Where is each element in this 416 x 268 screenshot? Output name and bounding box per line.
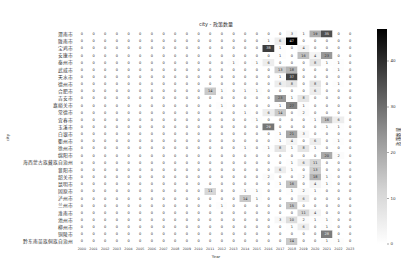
heatmap-cell: 0	[204, 95, 216, 102]
heatmap-cell: 0	[181, 216, 193, 223]
x-tick-label: 2007	[158, 247, 170, 251]
heatmap-cell: 0	[309, 238, 321, 245]
x-tick-label: 2012	[216, 247, 228, 251]
heatmap-cell: 0	[309, 231, 321, 238]
heatmap-cell: 0	[239, 66, 251, 73]
heatmap-cell: 1	[286, 145, 298, 152]
heatmap-cell: 0	[88, 209, 100, 216]
heatmap-cell: 1	[298, 31, 310, 38]
heatmap-cell: 0	[251, 159, 263, 166]
heatmap-cell: 15	[286, 202, 298, 209]
heatmap-cell: 3	[286, 31, 298, 38]
heatmap-cell: 0	[228, 102, 240, 109]
heatmap-cell: 0	[134, 38, 146, 45]
heatmap-cell: 0	[216, 174, 228, 181]
heatmap-cell: 0	[134, 31, 146, 38]
heatmap-cell: 6	[274, 166, 286, 173]
heatmap-cell: 0	[169, 209, 181, 216]
heatmap-cell: 0	[181, 188, 193, 195]
heatmap-cell: 0	[274, 238, 286, 245]
heatmap-cell: 0	[99, 109, 111, 116]
heatmap-cell: 0	[111, 138, 123, 145]
colorbar-label: 政策数量	[395, 117, 401, 157]
heatmap-cell: 0	[123, 31, 135, 38]
heatmap-cell: 0	[99, 216, 111, 223]
heatmap-cell: 0	[123, 81, 135, 88]
heatmap-cell: 0	[158, 216, 170, 223]
heatmap-cell: 0	[216, 216, 228, 223]
heatmap-cell: 0	[99, 152, 111, 159]
heatmap-cell: 1	[321, 123, 333, 130]
heatmap-cell: 0	[181, 109, 193, 116]
heatmap-cell: 0	[216, 138, 228, 145]
heatmap-cell: 16	[286, 181, 298, 188]
heatmap-cell: 0	[169, 66, 181, 73]
heatmap-cell: 0	[99, 52, 111, 59]
heatmap-cell: 0	[309, 195, 321, 202]
heatmap-cell: 0	[99, 38, 111, 45]
heatmap-cell: 0	[193, 31, 205, 38]
heatmap-cell: 0	[204, 123, 216, 130]
row-label: 徐州市	[0, 145, 73, 152]
heatmap-cell: 0	[134, 66, 146, 73]
heatmap-cell: 0	[344, 138, 356, 145]
heatmap-cell: 0	[344, 202, 356, 209]
x-tick-labels: 2000200120022003200420052006200720082009…	[76, 247, 356, 251]
heatmap-cell: 0	[99, 238, 111, 245]
heatmap-cell: 0	[228, 238, 240, 245]
heatmap-cell: 0	[239, 166, 251, 173]
heatmap-cell: 14	[239, 195, 251, 202]
heatmap-grid: 0000000000000000003119350000000000000000…	[76, 31, 356, 246]
heatmap-cell: 29	[263, 123, 275, 130]
row-label: 宝鸡市	[0, 45, 73, 52]
heatmap-cell: 0	[134, 181, 146, 188]
heatmap-cell: 0	[181, 131, 193, 138]
heatmap-cell: 0	[88, 202, 100, 209]
heatmap-cell: 0	[228, 73, 240, 80]
heatmap-cell: 0	[169, 131, 181, 138]
heatmap-cell: 0	[321, 166, 333, 173]
heatmap-cell: 0	[193, 59, 205, 66]
heatmap-cell: 0	[309, 224, 321, 231]
heatmap-cell: 0	[298, 152, 310, 159]
heatmap-cell: 0	[228, 231, 240, 238]
heatmap-cell: 0	[333, 195, 345, 202]
heatmap-cell: 0	[228, 52, 240, 59]
heatmap-cell: 0	[76, 166, 88, 173]
heatmap-cell: 0	[99, 59, 111, 66]
heatmap-cell: 0	[263, 216, 275, 223]
heatmap-cell: 1	[239, 88, 251, 95]
heatmap-cell: 0	[333, 102, 345, 109]
heatmap-cell: 1	[309, 145, 321, 152]
heatmap-cell: 0	[123, 109, 135, 116]
heatmap-cell: 0	[146, 81, 158, 88]
heatmap-cell: 0	[286, 88, 298, 95]
heatmap-cell: 0	[146, 59, 158, 66]
heatmap-cell: 0	[344, 52, 356, 59]
heatmap-cell: 0	[216, 116, 228, 123]
x-tick-label: 2004	[123, 247, 135, 251]
heatmap-cell: 0	[344, 188, 356, 195]
heatmap-cell: 0	[216, 181, 228, 188]
heatmap-cell: 0	[216, 45, 228, 52]
heatmap-cell: 0	[169, 38, 181, 45]
heatmap-cell: 0	[239, 152, 251, 159]
heatmap-cell: 0	[333, 231, 345, 238]
heatmap-cell: 0	[158, 66, 170, 73]
heatmap-cell: 0	[169, 202, 181, 209]
heatmap-cell: 0	[181, 88, 193, 95]
heatmap-cell: 0	[333, 73, 345, 80]
heatmap-cell: 10	[286, 216, 298, 223]
heatmap-cell: 0	[239, 159, 251, 166]
heatmap-cell: 0	[134, 152, 146, 159]
heatmap-cell: 0	[193, 73, 205, 80]
heatmap-cell: 1	[216, 88, 228, 95]
heatmap-cell: 0	[76, 38, 88, 45]
heatmap-cell: 0	[111, 159, 123, 166]
heatmap-cell: 0	[111, 181, 123, 188]
heatmap-cell: 0	[134, 45, 146, 52]
heatmap-cell: 0	[263, 181, 275, 188]
heatmap-cell: 0	[111, 238, 123, 245]
heatmap-cell: 0	[99, 95, 111, 102]
heatmap-cell: 0	[169, 159, 181, 166]
